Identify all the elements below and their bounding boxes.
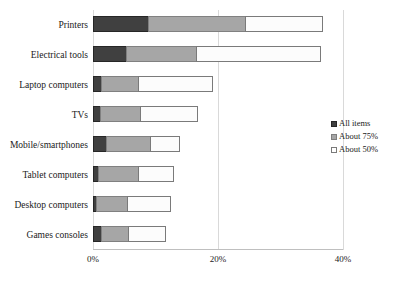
legend-label-about-50: About 50%: [339, 143, 378, 156]
bar-row: [93, 190, 343, 220]
category-label: TVs: [0, 109, 88, 121]
stacked-bar[interactable]: [93, 166, 174, 182]
legend-label-about-75: About 75%: [339, 130, 378, 143]
bar-segment[interactable]: [106, 136, 150, 152]
bar-row: [93, 130, 343, 160]
bar-segment[interactable]: [101, 76, 138, 92]
bar-row: [93, 100, 343, 130]
stacked-bar[interactable]: [93, 46, 321, 62]
category-label: Electrical tools: [0, 49, 88, 61]
category-label: Tablet computers: [0, 169, 88, 181]
x-tick-label: 20%: [210, 254, 227, 264]
category-label: Printers: [0, 19, 88, 31]
bar-segment[interactable]: [127, 196, 170, 212]
legend-label-all-items: All items: [339, 117, 370, 130]
x-tick-label: 0%: [87, 254, 99, 264]
bar-segment[interactable]: [93, 106, 100, 122]
bar-row: [93, 40, 343, 70]
stacked-bar[interactable]: [93, 106, 198, 122]
bar-rows: [93, 10, 343, 250]
bar-segment[interactable]: [245, 16, 323, 32]
legend-swatch-about-50: [331, 147, 337, 153]
legend-item-about-50[interactable]: About 50%: [331, 143, 378, 156]
bar-segment[interactable]: [140, 106, 198, 122]
bar-segment[interactable]: [138, 76, 213, 92]
stacked-bar[interactable]: [93, 76, 213, 92]
legend-swatch-about-75: [331, 134, 337, 140]
bar-segment[interactable]: [150, 136, 180, 152]
bar-segment[interactable]: [93, 76, 101, 92]
bar-row: [93, 10, 343, 40]
bar-segment[interactable]: [100, 106, 140, 122]
legend-item-about-75[interactable]: About 75%: [331, 130, 378, 143]
bar-segment[interactable]: [93, 226, 101, 242]
stacked-bar[interactable]: [93, 226, 166, 242]
stacked-bar[interactable]: [93, 196, 171, 212]
bar-segment[interactable]: [93, 16, 148, 32]
bar-segment[interactable]: [128, 226, 166, 242]
x-tick-label: 40%: [335, 254, 352, 264]
bar-row: [93, 70, 343, 100]
plot-area: [93, 10, 343, 250]
bar-segment[interactable]: [126, 46, 196, 62]
category-label: Mobile/smartphones: [0, 139, 88, 151]
stacked-bar-chart: PrintersElectrical toolsLaptop computers…: [0, 0, 407, 281]
bar-row: [93, 220, 343, 250]
category-label: Desktop computers: [0, 199, 88, 211]
bar-segment[interactable]: [93, 136, 106, 152]
bar-segment[interactable]: [196, 46, 321, 62]
bar-segment[interactable]: [138, 166, 174, 182]
category-label: Games consoles: [0, 229, 88, 241]
chart-legend: All items About 75% About 50%: [331, 117, 378, 156]
bar-segment[interactable]: [148, 16, 245, 32]
bar-row: [93, 160, 343, 190]
legend-swatch-all-items: [331, 121, 337, 127]
category-label: Laptop computers: [0, 79, 88, 91]
legend-item-all-items[interactable]: All items: [331, 117, 378, 130]
bar-segment[interactable]: [96, 196, 127, 212]
stacked-bar[interactable]: [93, 16, 323, 32]
bar-segment[interactable]: [98, 166, 138, 182]
bar-segment[interactable]: [101, 226, 128, 242]
bar-segment[interactable]: [93, 46, 126, 62]
stacked-bar[interactable]: [93, 136, 180, 152]
